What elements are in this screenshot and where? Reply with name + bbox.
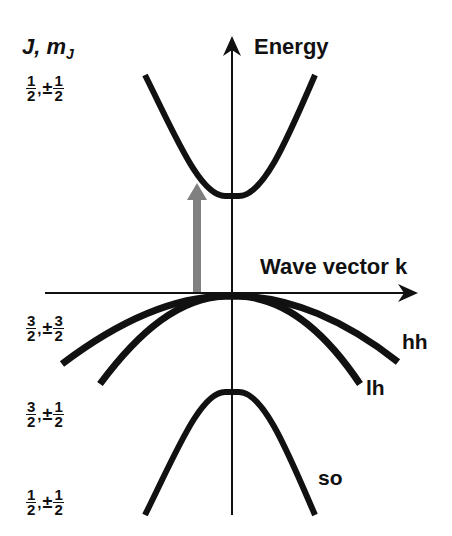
energy-axis-label: Energy — [254, 34, 329, 60]
state-label-lh: 32 ,± 12 — [26, 400, 64, 429]
split-off-band-curve — [145, 392, 315, 515]
so-band-label: so — [318, 466, 343, 490]
state-header: J, mJ — [22, 34, 74, 62]
conduction-band-curve — [145, 75, 315, 196]
lh-band-label: lh — [366, 376, 385, 400]
state-label-so: 12 ,± 12 — [26, 488, 64, 517]
k-axis-label: Wave vector k — [260, 254, 407, 280]
state-label-hh: 32 ,± 32 — [26, 314, 64, 343]
state-label-cb: 12 ,± 12 — [26, 74, 64, 103]
transition-arrow-shaft — [193, 198, 201, 292]
heavy-hole-band-curve — [62, 296, 398, 364]
hh-band-label: hh — [402, 330, 428, 354]
light-hole-band-curve — [100, 296, 360, 384]
